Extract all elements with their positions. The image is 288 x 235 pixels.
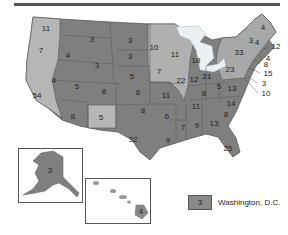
dc-votes-box: 3 bbox=[188, 195, 212, 210]
state-votes-sd: 3 bbox=[128, 52, 133, 61]
state-votes-wi: 11 bbox=[171, 50, 180, 59]
dc-legend: 3 Washington, D.C. bbox=[188, 195, 280, 210]
state-votes-mt: 3 bbox=[90, 35, 95, 44]
state-votes-ne: 5 bbox=[130, 72, 135, 81]
state-votes-wa: 11 bbox=[42, 24, 51, 33]
state-votes-ok: 8 bbox=[141, 106, 146, 115]
state-votes-ca: 54 bbox=[33, 91, 42, 100]
state-votes-ga: 13 bbox=[210, 119, 219, 128]
state-votes-nc: 14 bbox=[227, 99, 236, 108]
state-votes-me: 4 bbox=[261, 23, 266, 32]
state-votes-ia: 7 bbox=[157, 67, 162, 76]
state-votes-nh: 4 bbox=[255, 38, 260, 47]
state-votes-mn: 10 bbox=[150, 43, 159, 52]
state-votes-il: 22 bbox=[177, 76, 186, 85]
state-votes-wv: 5 bbox=[217, 82, 222, 91]
state-votes-mo: 11 bbox=[162, 91, 171, 100]
state-votes-va: 13 bbox=[228, 84, 237, 93]
state-votes-wy: 3 bbox=[95, 61, 100, 70]
state-votes-vt: 3 bbox=[249, 36, 254, 45]
hawaii-votes: 4 bbox=[139, 207, 144, 216]
state-votes-oh: 21 bbox=[203, 72, 212, 81]
state-votes-la: 9 bbox=[166, 136, 171, 145]
state-votes-az: 8 bbox=[71, 112, 76, 121]
state-votes-nv: 4 bbox=[52, 76, 57, 85]
state-votes-id: 4 bbox=[66, 51, 71, 60]
callout-votes-ct: 8 bbox=[264, 60, 269, 69]
state-votes-nm: 5 bbox=[99, 113, 104, 122]
hawaii-shape: 4 bbox=[86, 179, 150, 223]
state-votes-in: 12 bbox=[190, 75, 199, 84]
callout-votes-md: 10 bbox=[262, 89, 271, 98]
state-votes-ut: 5 bbox=[75, 82, 80, 91]
callout-votes-de: 3 bbox=[262, 79, 267, 88]
alaska-votes: 3 bbox=[48, 166, 53, 175]
callout-votes-nj: 15 bbox=[264, 69, 273, 78]
state-votes-co: 8 bbox=[102, 87, 107, 96]
state-votes-sc: 8 bbox=[224, 110, 229, 119]
state-votes-pa: 23 bbox=[226, 65, 235, 74]
state-votes-fl: 25 bbox=[224, 144, 233, 153]
hawaii-inset: 4 bbox=[85, 178, 151, 224]
dc-label: Washington, D.C. bbox=[218, 198, 280, 207]
state-votes-nd: 3 bbox=[128, 36, 133, 45]
state-votes-ar: 6 bbox=[165, 112, 170, 121]
state-votes-al: 9 bbox=[195, 121, 200, 130]
state-votes-ny: 33 bbox=[235, 48, 244, 57]
alaska-shape: 3 bbox=[19, 149, 82, 202]
state-votes-ks: 6 bbox=[136, 88, 141, 97]
state-votes-tx: 32 bbox=[129, 135, 138, 144]
callout-votes-ma: 12 bbox=[272, 42, 281, 51]
state-votes-tn: 11 bbox=[192, 102, 201, 111]
state-votes-ms: 7 bbox=[181, 123, 186, 132]
state-votes-mi: 18 bbox=[192, 56, 201, 65]
state-votes-or: 7 bbox=[39, 46, 44, 55]
state-votes-ky: 8 bbox=[202, 89, 207, 98]
alaska-inset: 3 bbox=[18, 148, 83, 203]
